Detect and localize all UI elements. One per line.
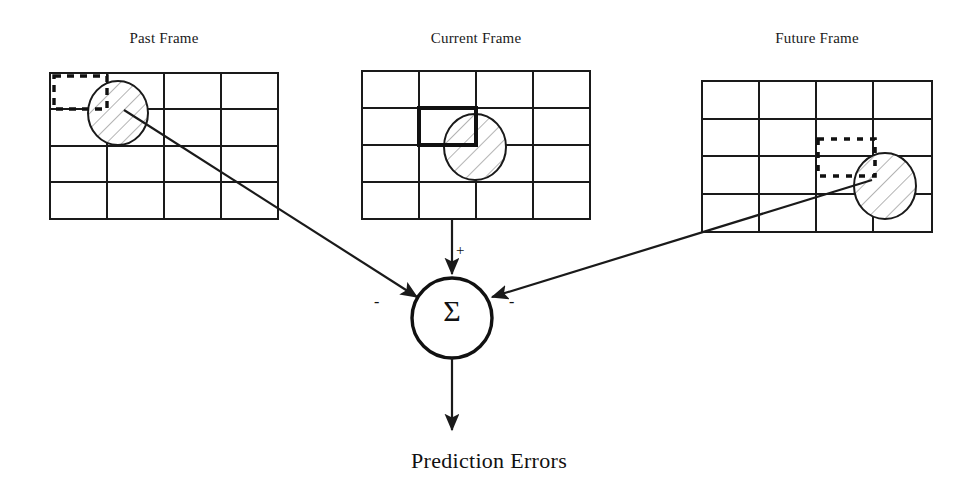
minus-sign-future-input: - bbox=[509, 294, 514, 310]
past-frame-object bbox=[88, 81, 148, 145]
summation-sigma-symbol: Σ bbox=[412, 294, 492, 328]
figure-canvas: Past Frame Current Frame Future Frame Σ … bbox=[0, 0, 978, 496]
past-frame-grid bbox=[50, 73, 278, 219]
current-frame-title: Current Frame bbox=[362, 30, 590, 47]
minus-sign-past-input: - bbox=[374, 294, 379, 310]
future-frame-object bbox=[854, 153, 916, 219]
plus-sign-current-input: + bbox=[456, 243, 464, 258]
prediction-errors-label: Prediction Errors bbox=[0, 448, 978, 474]
future-frame-title: Future Frame bbox=[702, 30, 932, 47]
past-frame-title: Past Frame bbox=[50, 30, 278, 47]
prediction-error-diagram bbox=[0, 0, 978, 496]
